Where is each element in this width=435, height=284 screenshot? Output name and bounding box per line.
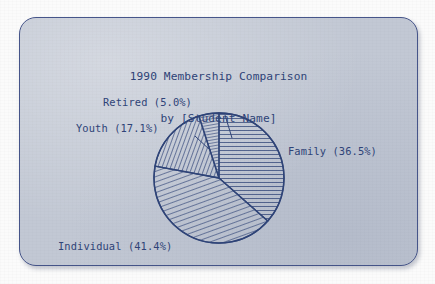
pie-label-family: Family (36.5%) (288, 145, 377, 157)
pie-label-youth: Youth (17.1%) (76, 122, 159, 134)
pie-label-retired: Retired (5.0%) (103, 96, 192, 108)
pie-label-individual: Individual (41.4%) (58, 240, 172, 252)
slide-card: 1990 Membership Comparison by [Student N… (19, 17, 418, 266)
screenshot-canvas: 1990 Membership Comparison by [Student N… (0, 0, 435, 284)
pie-chart (20, 18, 418, 266)
